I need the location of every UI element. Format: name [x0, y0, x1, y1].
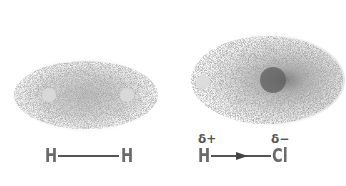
h2-noise-overlay [14, 61, 158, 129]
h2-bond-line [58, 155, 119, 157]
h-nucleus [196, 75, 210, 89]
h2-electron-cloud [0, 0, 173, 186]
hcl-atom-a-label: H [198, 146, 210, 165]
hcl-panel: δ+ H δ− Cl [173, 0, 346, 186]
h2-atom-b-label: H [121, 146, 133, 165]
hcl-atom-b-label: Cl [272, 146, 288, 165]
h-nucleus-right [120, 88, 134, 102]
h2-panel: H H [0, 0, 173, 186]
polarity-arrow-icon [236, 152, 248, 160]
cl-nucleus [260, 67, 286, 93]
h-nucleus-left [42, 88, 56, 102]
h2-atom-a-label: H [45, 146, 57, 165]
